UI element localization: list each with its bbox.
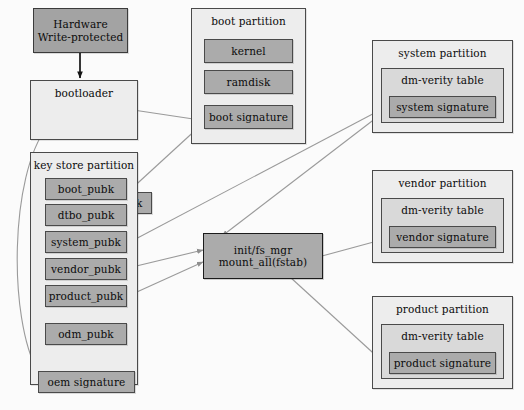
block-product-signature[interactable]: product signature: [389, 352, 496, 374]
block-vendor-pubk[interactable]: vendor_pubk: [45, 258, 127, 280]
block-ramdisk[interactable]: ramdisk: [204, 70, 293, 94]
block-dtbo-pubk[interactable]: dtbo_pubk: [45, 204, 127, 226]
block-boot-pubk[interactable]: boot_pubk: [45, 178, 127, 200]
system-dm-verity-table-title: dm-verity table: [382, 69, 503, 86]
wire-boot-pubk-to-boot-signature: [128, 126, 200, 192]
product-partition-title: product partition: [373, 297, 512, 315]
wire-vendor-pubk-to-init: [128, 250, 203, 268]
wire-init-to-product-signature: [290, 277, 383, 362]
block-product-pubk[interactable]: product_pubk: [45, 285, 127, 307]
key-store-partition-title: key store partition: [31, 153, 137, 171]
block-vendor-signature[interactable]: vendor signature: [389, 226, 496, 248]
vendor-partition-title: vendor partition: [373, 171, 512, 189]
block-oem-signature[interactable]: oem signature: [38, 371, 135, 393]
block-odm-pubk[interactable]: odm_pubk: [45, 323, 127, 345]
bootloader-partition[interactable]: bootloader oem_pubk: [30, 80, 138, 140]
hardware-write-protected-block[interactable]: Hardware Write-protected: [33, 8, 128, 53]
block-system-signature[interactable]: system signature: [389, 96, 496, 118]
block-boot-signature[interactable]: boot signature: [204, 105, 293, 129]
product-dm-verity-table-title: dm-verity table: [382, 325, 503, 342]
block-kernel[interactable]: kernel: [204, 39, 293, 63]
system-partition-title: system partition: [373, 41, 512, 59]
vendor-dm-verity-table-title: dm-verity table: [382, 199, 503, 216]
diagram-canvas: Hardware Write-protected bootloader oem_…: [0, 0, 524, 410]
boot-partition-title: boot partition: [192, 9, 305, 27]
init-fs-mgr-node[interactable]: init/fs_mgr mount_all(fstab): [203, 233, 323, 279]
wire-product-pubk-to-init: [128, 262, 203, 296]
block-system-pubk[interactable]: system_pubk: [45, 231, 127, 253]
bootloader-title: bootloader: [31, 81, 137, 99]
